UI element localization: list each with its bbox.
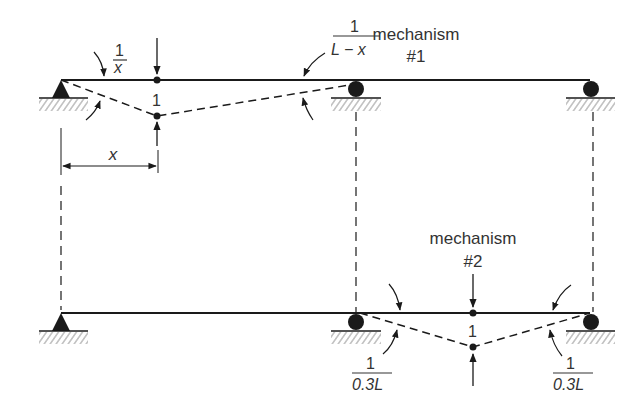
- deflected-shape-1: [61, 80, 356, 116]
- rotation-right-num-1: 1: [350, 18, 359, 35]
- roller-support-icon: [566, 81, 615, 111]
- roller-support-icon: [331, 81, 381, 111]
- rotation-right-den-2: 0.3L: [553, 376, 584, 393]
- roller-support-icon: [331, 314, 381, 344]
- pin-support-icon: [39, 80, 88, 111]
- rotation-left-den-1: x: [113, 59, 123, 76]
- deflection-label-1: 1: [152, 92, 161, 109]
- mechanism-diagram: 1 1 x 1 L − x mechanism #1 x: [0, 0, 639, 412]
- rotation-right-den-1: L − x: [331, 41, 367, 58]
- rotation-right-num-2: 1: [566, 355, 575, 372]
- mechanism-2: 1 1 0.3L 1 0.3L mechanism #2: [39, 229, 615, 393]
- pin-support-icon: [39, 313, 88, 344]
- hinge-point-icon: [154, 77, 161, 84]
- rotation-arrow-icon: [550, 330, 562, 356]
- mechanism-1-title: mechanism: [373, 25, 460, 44]
- rotation-arrow-icon: [94, 52, 104, 76]
- rotation-left-num-1: 1: [115, 42, 124, 59]
- mechanism-2-title: mechanism: [430, 229, 517, 248]
- rotation-arrow-icon: [304, 53, 325, 76]
- rotation-arrow-icon: [383, 330, 397, 354]
- mechanism-2-number: #2: [464, 252, 483, 271]
- deflection-label-2: 1: [468, 323, 477, 340]
- rotation-arrow-icon: [389, 284, 400, 310]
- rotation-arrow-icon: [553, 285, 571, 310]
- rotation-left-den-2: 0.3L: [352, 376, 383, 393]
- rotation-left-num-2: 1: [366, 355, 375, 372]
- dimension-label-x: x: [108, 145, 118, 164]
- rotation-arrow-icon: [303, 98, 313, 120]
- hinge-point-icon: [470, 310, 477, 317]
- mechanism-1-number: #1: [407, 47, 426, 66]
- mechanism-1: 1 1 x 1 L − x mechanism #1 x: [39, 18, 615, 175]
- rotation-arrow-icon: [86, 101, 100, 120]
- projection-lines: [61, 112, 593, 312]
